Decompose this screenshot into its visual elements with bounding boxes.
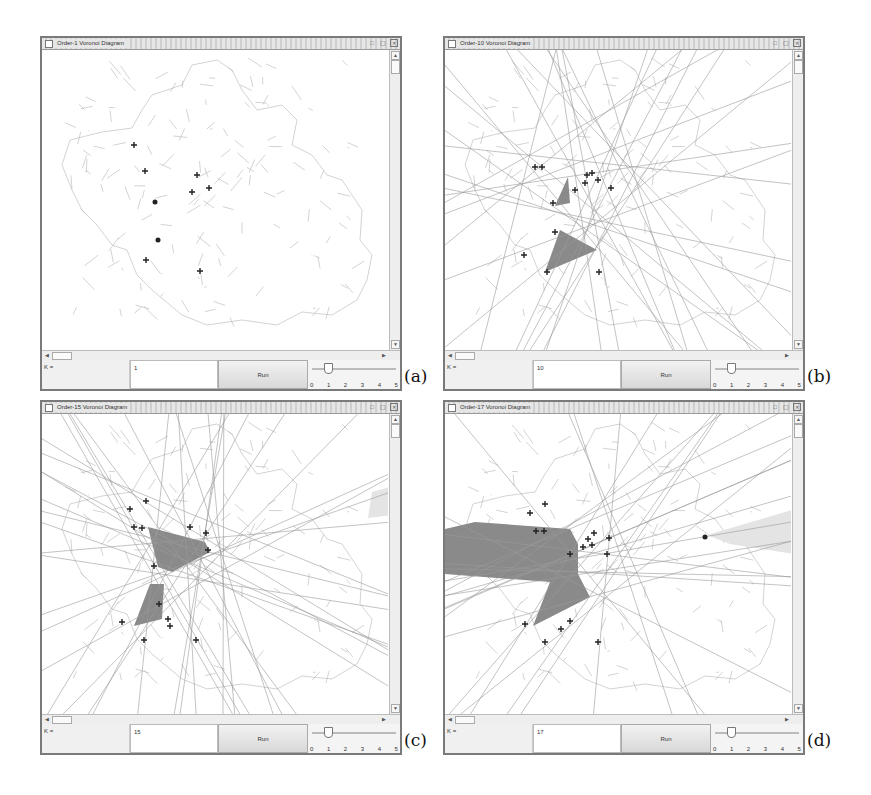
run-button[interactable]: Run xyxy=(218,360,308,389)
scroll-down-icon[interactable]: ▼ xyxy=(794,340,803,349)
slider-tick: 1 xyxy=(327,746,330,752)
k-input[interactable]: 17 xyxy=(533,724,621,753)
slider-thumb[interactable] xyxy=(324,363,333,374)
order-slider[interactable]: 012345 xyxy=(308,724,400,753)
vertical-scroll-thumb[interactable] xyxy=(794,60,803,74)
slider-tick: 4 xyxy=(378,382,381,388)
k-label: K = xyxy=(445,360,533,389)
slider-tick: 0 xyxy=(713,382,716,388)
restore-icon[interactable]: □ xyxy=(368,39,376,47)
scroll-down-icon[interactable]: ▼ xyxy=(391,704,400,713)
panel-c: Order-15 Voronoi Diagram □ ▢ ✕ xyxy=(40,400,440,760)
maximize-icon[interactable]: ▢ xyxy=(782,403,790,411)
scroll-up-icon[interactable]: ▲ xyxy=(794,51,803,60)
restore-icon[interactable]: □ xyxy=(771,39,779,47)
panel-a: Order-1 Voronoi Diagram □ ▢ ✕ ▲ xyxy=(40,36,440,396)
k-input[interactable]: 15 xyxy=(130,724,218,753)
vertical-scroll-thumb[interactable] xyxy=(794,424,803,438)
scroll-right-icon[interactable]: ▶ xyxy=(783,715,791,723)
maximize-icon[interactable]: ▢ xyxy=(782,39,790,47)
scroll-up-icon[interactable]: ▲ xyxy=(794,415,803,424)
restore-icon[interactable]: □ xyxy=(368,403,376,411)
k-input[interactable]: 1 xyxy=(130,360,218,389)
map-canvas[interactable] xyxy=(445,50,791,350)
horizontal-scroll-thumb[interactable] xyxy=(52,716,72,724)
voronoi-map xyxy=(42,414,388,714)
slider-tick-labels: 012345 xyxy=(310,382,398,388)
slider-tick: 4 xyxy=(378,746,381,752)
slider-thumb[interactable] xyxy=(727,363,736,374)
slider-tick: 0 xyxy=(713,746,716,752)
maximize-icon[interactable]: ▢ xyxy=(379,403,387,411)
map-canvas[interactable] xyxy=(42,50,388,350)
window-icon xyxy=(45,40,53,48)
map-canvas[interactable] xyxy=(445,414,791,714)
scroll-down-icon[interactable]: ▼ xyxy=(794,704,803,713)
slider-thumb[interactable] xyxy=(727,727,736,738)
horizontal-scroll-thumb[interactable] xyxy=(455,716,475,724)
window-icon xyxy=(448,40,456,48)
scroll-left-icon[interactable]: ◀ xyxy=(446,351,454,359)
close-icon[interactable]: ✕ xyxy=(793,403,801,411)
vertical-scroll-thumb[interactable] xyxy=(391,424,400,438)
vertical-scrollbar[interactable]: ▲ ▼ xyxy=(792,50,803,350)
maximize-icon[interactable]: ▢ xyxy=(379,39,387,47)
slider-tick: 0 xyxy=(310,746,313,752)
control-bar: K = 15 Run 012345 xyxy=(42,724,400,753)
panel-d: Order-17 Voronoi Diagram □ ▢ ✕ xyxy=(443,400,843,760)
panel-b: Order-10 Voronoi Diagram □ ▢ ✕ xyxy=(443,36,843,396)
voronoi-map xyxy=(42,50,388,350)
vertical-scroll-thumb[interactable] xyxy=(391,60,400,74)
close-icon[interactable]: ✕ xyxy=(793,39,801,47)
slider-tick: 2 xyxy=(747,746,750,752)
window-title-bar[interactable]: Order-10 Voronoi Diagram □ ▢ ✕ xyxy=(445,38,803,50)
scroll-left-icon[interactable]: ◀ xyxy=(43,715,51,723)
run-button[interactable]: Run xyxy=(218,724,308,753)
window-title: Order-1 Voronoi Diagram xyxy=(54,39,127,48)
slider-thumb[interactable] xyxy=(324,727,333,738)
slider-tick-labels: 012345 xyxy=(713,746,801,752)
slider-tick: 5 xyxy=(798,382,801,388)
control-bar: K = 10 Run 012345 xyxy=(445,360,803,389)
restore-icon[interactable]: □ xyxy=(771,403,779,411)
vertical-scrollbar[interactable]: ▲ ▼ xyxy=(792,414,803,714)
window-title: Order-15 Voronoi Diagram xyxy=(54,403,130,412)
slider-tick: 4 xyxy=(781,746,784,752)
window-title-bar[interactable]: Order-17 Voronoi Diagram □ ▢ ✕ xyxy=(445,402,803,414)
window-controls: □ ▢ ✕ xyxy=(771,39,801,47)
slider-tick: 5 xyxy=(395,382,398,388)
k-input[interactable]: 10 xyxy=(533,360,621,389)
slider-tick: 1 xyxy=(730,746,733,752)
scroll-left-icon[interactable]: ◀ xyxy=(43,351,51,359)
scroll-left-icon[interactable]: ◀ xyxy=(446,715,454,723)
close-icon[interactable]: ✕ xyxy=(390,39,398,47)
run-button[interactable]: Run xyxy=(621,360,711,389)
voronoi-window: Order-10 Voronoi Diagram □ ▢ ✕ xyxy=(443,36,805,391)
window-controls: □ ▢ ✕ xyxy=(771,403,801,411)
horizontal-scroll-thumb[interactable] xyxy=(455,352,475,360)
window-title: Order-10 Voronoi Diagram xyxy=(457,39,533,48)
scroll-right-icon[interactable]: ▶ xyxy=(783,351,791,359)
order-slider[interactable]: 012345 xyxy=(711,724,803,753)
window-title: Order-17 Voronoi Diagram xyxy=(457,403,533,412)
order-slider[interactable]: 012345 xyxy=(308,360,400,389)
window-controls: □ ▢ ✕ xyxy=(368,403,398,411)
panel-label: (a) xyxy=(404,366,427,386)
slider-tick: 3 xyxy=(361,382,364,388)
horizontal-scroll-thumb[interactable] xyxy=(52,352,72,360)
scroll-up-icon[interactable]: ▲ xyxy=(391,51,400,60)
scroll-up-icon[interactable]: ▲ xyxy=(391,415,400,424)
window-title-bar[interactable]: Order-1 Voronoi Diagram □ ▢ ✕ xyxy=(42,38,400,50)
scroll-right-icon[interactable]: ▶ xyxy=(380,351,388,359)
order-slider[interactable]: 012345 xyxy=(711,360,803,389)
scroll-right-icon[interactable]: ▶ xyxy=(380,715,388,723)
close-icon[interactable]: ✕ xyxy=(390,403,398,411)
scroll-down-icon[interactable]: ▼ xyxy=(391,340,400,349)
window-title-bar[interactable]: Order-15 Voronoi Diagram □ ▢ ✕ xyxy=(42,402,400,414)
run-button[interactable]: Run xyxy=(621,724,711,753)
vertical-scrollbar[interactable]: ▲ ▼ xyxy=(389,414,400,714)
vertical-scrollbar[interactable]: ▲ ▼ xyxy=(389,50,400,350)
map-canvas[interactable] xyxy=(42,414,388,714)
slider-tick: 3 xyxy=(764,382,767,388)
panel-label: (d) xyxy=(807,730,831,750)
